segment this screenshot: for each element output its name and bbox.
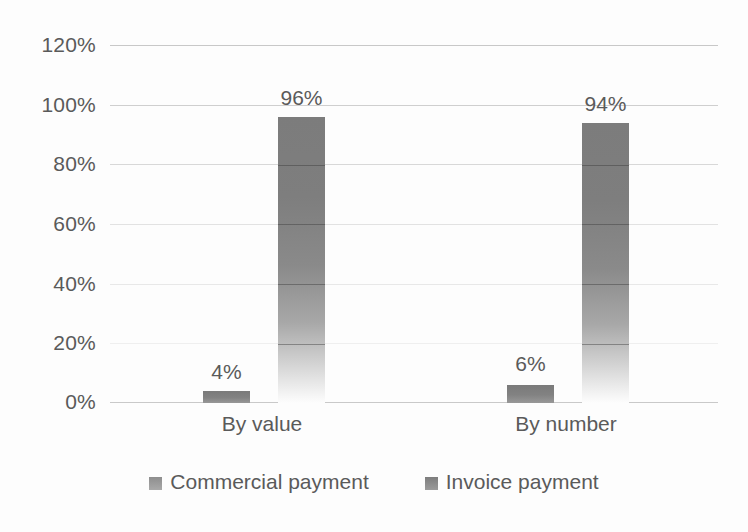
bar-gridline-seam [582,284,629,285]
bar-gridline-seam [582,344,629,345]
bar-invoice-payment-by-number[interactable]: 94% [582,123,629,403]
bar-commercial-payment-by-number[interactable]: 6% [507,385,554,403]
bar-fill [507,385,554,403]
bar-invoice-payment-by-value[interactable]: 96% [278,117,325,403]
y-axis-tick-20: 20% [0,331,96,355]
legend-label: Commercial payment [170,470,368,494]
y-axis-tick-100: 100% [0,93,96,117]
legend-item-commercial-payment[interactable]: Commercial payment [149,470,368,494]
legend-label: Invoice payment [446,470,599,494]
y-axis-tick-120: 120% [0,33,96,57]
bar-value-label: 4% [211,360,241,384]
bar-gridline-seam [582,224,629,225]
bar-gridline-seam [582,165,629,166]
y-axis: 120% 100% 80% 60% 40% 20% 0% [0,45,96,403]
bar-value-label: 94% [584,92,626,116]
y-axis-tick-80: 80% [0,152,96,176]
x-axis-label-by-value: By value [110,412,414,436]
chart-legend: Commercial payment Invoice payment [0,470,748,494]
bar-fill [203,391,250,403]
bar-chart: 120% 100% 80% 60% 40% 20% 0% 4% [0,0,748,532]
bar-group-by-number: 6% 94% [414,46,718,403]
bar-gridline-seam [278,224,325,225]
bar-value-label: 96% [280,86,322,110]
x-axis-label-by-number: By number [414,412,718,436]
bar-value-label: 6% [515,352,545,376]
legend-item-invoice-payment[interactable]: Invoice payment [425,470,599,494]
plot-area: 4% 96% 6% 94% [110,45,718,403]
bar-gridline-seam [278,165,325,166]
y-axis-tick-40: 40% [0,272,96,296]
legend-swatch-icon [425,477,438,490]
bar-fill [278,117,325,403]
y-axis-tick-0: 0% [0,390,96,414]
x-axis: By value By number [110,412,718,446]
legend-swatch-icon [149,477,162,490]
bar-gridline-seam [278,284,325,285]
bar-commercial-payment-by-value[interactable]: 4% [203,391,250,403]
bar-group-by-value: 4% 96% [110,46,414,403]
bar-gridline-seam [278,344,325,345]
y-axis-tick-60: 60% [0,212,96,236]
